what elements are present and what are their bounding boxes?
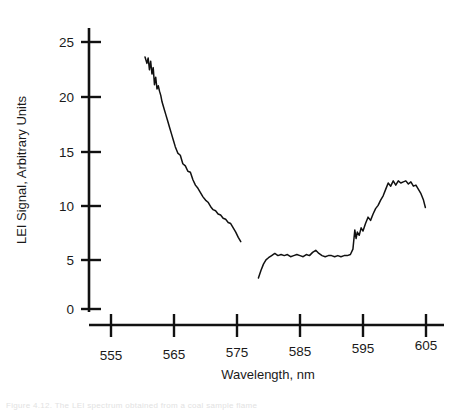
y-tick-label-15: 15 [59, 145, 74, 160]
x-tick-label-565: 565 [163, 347, 186, 362]
x-tick-label-595: 595 [352, 341, 375, 356]
y-axis-title: LEI Signal, Arbitrary Units [14, 95, 29, 244]
y-axis-tick-labels: 25 20 15 10 5 0 [59, 35, 74, 317]
y-tick-label-0: 0 [66, 302, 74, 317]
x-tick-label-605: 605 [415, 338, 438, 353]
figure-container: 25 20 15 10 5 0 555 565 575 585 595 605 … [0, 0, 460, 414]
y-tick-label-5: 5 [66, 253, 74, 268]
x-tick-label-555: 555 [100, 348, 123, 363]
x-axis-title: Wavelength, nm [221, 367, 314, 382]
x-axis-tick-labels: 555 565 575 585 595 605 [100, 338, 438, 363]
x-tick-label-585: 585 [289, 344, 312, 359]
figure-caption: Figure 4.12. The LEI spectrum obtained f… [6, 401, 454, 413]
data-series-2 [258, 181, 425, 278]
y-axis-ticks [81, 42, 101, 309]
y-tick-label-10: 10 [59, 199, 74, 214]
y-tick-label-25: 25 [59, 35, 74, 50]
y-tick-label-20: 20 [59, 90, 74, 105]
x-tick-label-575: 575 [226, 345, 249, 360]
data-series-1 [145, 57, 241, 242]
chart-canvas: 25 20 15 10 5 0 555 565 575 585 595 605 … [0, 0, 460, 414]
